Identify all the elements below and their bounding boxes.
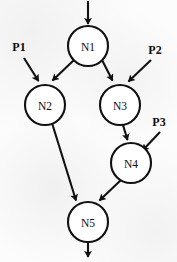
edge-n4-to-n5: [100, 180, 122, 201]
node-n3[interactable]: N3: [100, 85, 140, 125]
node-n1-label: N1: [81, 41, 95, 53]
node-n1[interactable]: N1: [68, 26, 108, 66]
node-n3-label: N3: [113, 100, 127, 112]
edge-p1-to-n2: [24, 58, 39, 81]
edge-p2-to-n3: [129, 60, 152, 82]
edge-n2-to-n5: [52, 123, 76, 201]
port-label-p3: P3: [152, 115, 165, 129]
port-label-p2: P2: [148, 43, 161, 57]
node-n5[interactable]: N5: [68, 202, 108, 242]
graph-svg: N1 N2 N3 N4 N5 P1 P2 P3: [0, 0, 177, 262]
edge-n1-to-n2: [53, 60, 75, 81]
node-n4[interactable]: N4: [111, 143, 151, 183]
node-n5-label: N5: [81, 217, 95, 229]
node-layer: N1 N2 N3 N4 N5: [25, 26, 151, 242]
node-n2-label: N2: [38, 100, 52, 112]
diagram-canvas: N1 N2 N3 N4 N5 P1 P2 P3: [0, 0, 177, 262]
port-label-p1: P1: [12, 40, 25, 54]
edge-n1-to-n3: [102, 60, 113, 81]
edge-n3-to-n4: [123, 125, 128, 140]
node-n2[interactable]: N2: [25, 85, 65, 125]
node-n4-label: N4: [124, 158, 138, 170]
